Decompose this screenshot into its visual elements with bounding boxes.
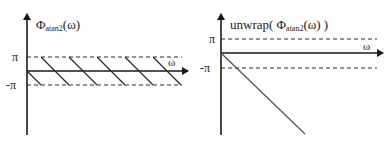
neg-pi-tick-label: -π (6, 78, 16, 92)
wrapped-phase-plot: Φatan2(ω) π -π ω (6, 14, 188, 135)
omega-axis-label: ω (168, 56, 175, 68)
omega-axis-label: ω (363, 40, 370, 52)
pi-tick-label: π (12, 50, 18, 64)
neg-pi-tick-label: -π (200, 61, 210, 75)
unwrapped-phase-plot: unwrap( Φatan2(ω) ) π -π ω (200, 14, 383, 135)
wrapped-phase-title: Φatan2(ω) (36, 17, 80, 33)
unwrapped-phase-title: unwrap( Φatan2(ω) ) (230, 17, 328, 33)
unwrapped-phase-line (221, 53, 305, 134)
pi-tick-label: π (209, 32, 215, 46)
phase-unwrapping-diagram: Φatan2(ω) π -π ω unwrap( Φatan2(ω) ) π -… (0, 0, 392, 147)
